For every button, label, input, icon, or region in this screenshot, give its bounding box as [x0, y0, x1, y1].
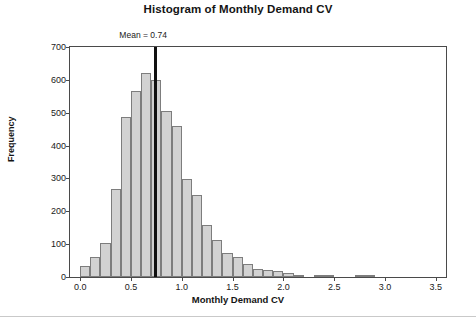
histogram-bar — [100, 243, 110, 278]
histogram-bar — [294, 275, 304, 277]
x-axis-tick-mark — [436, 277, 437, 281]
histogram-bar — [365, 275, 375, 277]
histogram-bar — [182, 179, 192, 277]
histogram-bar — [263, 270, 273, 277]
y-axis-tick-label: 500 — [51, 108, 66, 118]
y-axis-tick-mark — [66, 47, 70, 48]
x-axis-tick-label: 2.0 — [277, 282, 290, 292]
x-axis-tick-label: 3.0 — [379, 282, 392, 292]
x-axis-tick-label: 2.5 — [328, 282, 341, 292]
histogram-bar — [80, 266, 90, 278]
footer-divider — [0, 316, 476, 317]
y-axis-tick-mark — [66, 277, 70, 278]
y-axis-tick-label: 100 — [51, 239, 66, 249]
y-axis-tick-mark — [66, 80, 70, 81]
histogram-figure: Histogram of Monthly Demand CV Frequency… — [0, 0, 476, 328]
y-axis-tick-label: 700 — [51, 42, 66, 52]
histogram-bar — [212, 240, 222, 277]
histogram-bar — [161, 111, 171, 277]
x-axis-tick-label: 0.5 — [125, 282, 138, 292]
x-axis-tick-label: 3.5 — [430, 282, 443, 292]
mean-annotation-label: Mean = 0.74 — [119, 30, 167, 40]
chart-title: Histogram of Monthly Demand CV — [0, 3, 476, 15]
histogram-bar — [233, 257, 243, 277]
x-axis-tick-mark — [80, 277, 81, 281]
y-axis-tick-label: 400 — [51, 141, 66, 151]
y-axis-tick-mark — [66, 178, 70, 179]
y-axis-tick-mark — [66, 211, 70, 212]
y-axis-tick-mark — [66, 113, 70, 114]
histogram-bar — [131, 91, 141, 277]
histogram-bar — [222, 253, 232, 277]
y-axis-tick-mark — [66, 146, 70, 147]
histogram-bar — [355, 275, 365, 277]
y-axis-tick-label: 600 — [51, 75, 66, 85]
histogram-bar — [111, 189, 121, 277]
histogram-bar — [202, 225, 212, 277]
histogram-bar — [273, 271, 283, 277]
y-axis-label: Frequency — [6, 116, 16, 162]
x-axis-tick-mark — [385, 277, 386, 281]
histogram-bar — [172, 126, 182, 277]
histogram-bar — [324, 275, 334, 277]
x-axis-tick-mark — [233, 277, 234, 281]
histogram-bar — [314, 275, 324, 277]
x-axis-tick-mark — [283, 277, 284, 281]
x-axis-tick-mark — [131, 277, 132, 281]
x-axis-tick-mark — [334, 277, 335, 281]
y-axis-tick-mark — [66, 244, 70, 245]
x-axis-label: Monthly Demand CV — [0, 294, 476, 305]
x-axis-tick-label: 0.0 — [74, 282, 87, 292]
x-axis-tick-mark — [182, 277, 183, 281]
x-axis-tick-label: 1.5 — [226, 282, 239, 292]
y-axis-tick-label: 200 — [51, 206, 66, 216]
mean-line — [154, 47, 157, 277]
histogram-bar — [283, 273, 293, 277]
histogram-bar — [253, 269, 263, 277]
histogram-bar — [121, 117, 131, 277]
y-axis-tick-label: 300 — [51, 173, 66, 183]
x-axis-tick-label: 1.0 — [176, 282, 189, 292]
histogram-bar — [141, 73, 151, 277]
histogram-bar — [243, 264, 253, 277]
plot-area: 0100200300400500600700 0.00.51.01.52.02.… — [69, 46, 447, 278]
histogram-bar — [90, 257, 100, 277]
histogram-bar — [192, 195, 202, 277]
